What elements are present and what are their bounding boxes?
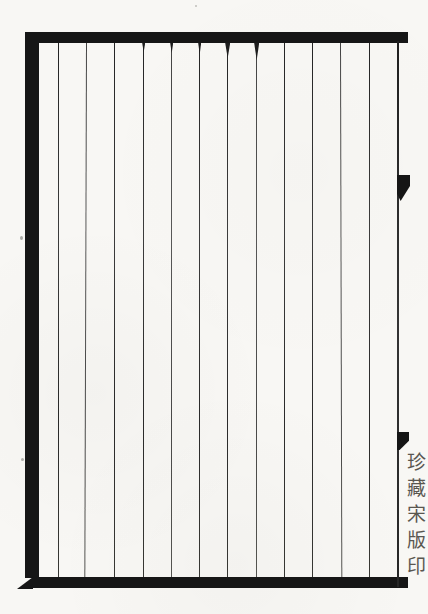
column-rule — [227, 43, 228, 577]
scanned-book-page: 珍藏宋版印 — [0, 0, 428, 614]
column-rule — [58, 43, 59, 577]
scan-speck — [20, 236, 23, 240]
frame-bottom-border — [33, 577, 408, 588]
frame-corner-miter — [17, 577, 33, 589]
column-rule — [114, 43, 115, 577]
column-rule — [369, 43, 370, 577]
margin-rule — [397, 41, 399, 587]
column-rule — [312, 43, 313, 577]
column-head-wedge — [225, 43, 230, 58]
column-rule — [256, 43, 257, 577]
column-rule — [171, 43, 172, 577]
scan-speck — [195, 5, 197, 7]
scan-speck — [21, 458, 24, 461]
column-rule — [284, 43, 285, 577]
binding-notch-upper — [397, 175, 410, 201]
edition-label: 珍藏宋版印 — [401, 452, 428, 602]
column-rule — [84, 43, 87, 577]
column-rule — [340, 43, 342, 577]
frame-top-border — [25, 32, 408, 43]
binding-notch-lower — [397, 432, 409, 450]
column-rule — [199, 43, 200, 577]
frame-left-border — [25, 32, 39, 578]
column-rule — [143, 43, 144, 577]
column-head-wedge — [254, 43, 259, 60]
